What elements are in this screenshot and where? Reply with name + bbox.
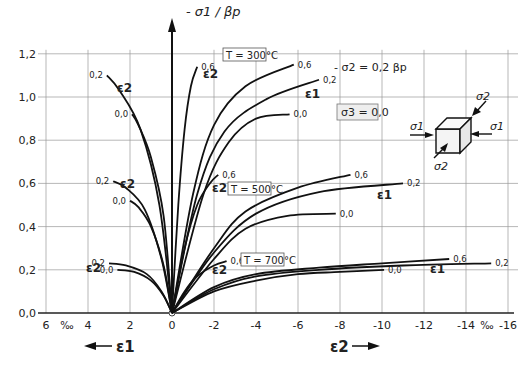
curve-end-label: 0,0 bbox=[100, 265, 114, 275]
y-tick-label: 1,2 bbox=[19, 48, 37, 61]
x-tick-label: 6 bbox=[43, 319, 50, 332]
curve bbox=[172, 270, 384, 313]
strain-label: ε2 bbox=[212, 263, 227, 277]
sigma1-right-label: σ1 bbox=[490, 120, 504, 133]
unit-label: ‰ bbox=[60, 320, 73, 331]
curve-end-label: 0,2 bbox=[407, 178, 421, 188]
sigma2-top-label: σ2 bbox=[476, 90, 490, 103]
label-T500: T = 500°C bbox=[228, 182, 283, 195]
svg-text:ε2: ε2 bbox=[330, 338, 349, 356]
curve-end-label: 0,6 bbox=[298, 60, 312, 70]
x-tick-label: 0 bbox=[169, 319, 176, 332]
curve-end-label: 0,0 bbox=[112, 196, 126, 206]
curve-end-label: 0,0 bbox=[388, 265, 402, 275]
strain-label: ε1 bbox=[305, 87, 320, 101]
label-T700: T = 700°C bbox=[241, 253, 296, 266]
curve-end-label: 0,6 bbox=[222, 170, 236, 180]
stress-strain-chart: 6420-2-4-6-8-10-12-14-16‰‰0,00,20,40,60,… bbox=[0, 0, 532, 365]
label-T300: T = 300°C bbox=[223, 48, 278, 61]
strain-label: ε1 bbox=[430, 262, 445, 276]
x-axis-label-eps2: ε2 bbox=[330, 338, 380, 356]
svg-text:T = 500°C: T = 500°C bbox=[230, 184, 283, 195]
y-tick-label: 0,6 bbox=[19, 177, 37, 190]
sigma2-bottom-label: σ2 bbox=[434, 160, 448, 173]
x-axis-label-eps1: ε1 bbox=[84, 338, 135, 356]
strain-label: ε2 bbox=[120, 177, 135, 191]
svg-text:T = 300°C: T = 300°C bbox=[225, 50, 278, 61]
strain-label: ε1 bbox=[377, 188, 392, 202]
x-tick-label: -6 bbox=[293, 319, 304, 332]
x-tick-label: -2 bbox=[209, 319, 220, 332]
x-tick-label: -8 bbox=[335, 319, 346, 332]
x-tick-label: -4 bbox=[251, 319, 262, 332]
arrow-left-icon bbox=[84, 342, 96, 350]
y-tick-label: 0,4 bbox=[19, 221, 37, 234]
curve-end-label: 0,2 bbox=[323, 75, 337, 85]
arrow-right-icon bbox=[368, 342, 380, 350]
x-tick-label: 2 bbox=[127, 319, 134, 332]
curve-end-label: 0,6 bbox=[453, 254, 467, 264]
y-tick-label: 1,0 bbox=[19, 91, 37, 104]
strain-label: ε2 bbox=[117, 81, 132, 95]
x-tick-label: -12 bbox=[415, 319, 433, 332]
svg-text:σ3 = 0,0: σ3 = 0,0 bbox=[341, 106, 389, 119]
svg-text:T = 700°C: T = 700°C bbox=[243, 255, 296, 266]
strain-label: ε2 bbox=[203, 67, 218, 81]
curve-end-label: 0,2 bbox=[495, 258, 509, 268]
y-tick-label: 0,0 bbox=[19, 307, 37, 320]
curve-end-label: 0,6 bbox=[355, 170, 369, 180]
y-tick-label: 0,2 bbox=[19, 264, 37, 277]
curve bbox=[117, 270, 172, 313]
curve-end-label: 0,0 bbox=[115, 109, 129, 119]
y-axis-arrow-icon bbox=[168, 18, 176, 32]
curve-end-label: 0,0 bbox=[294, 109, 308, 119]
strain-label: ε2 bbox=[86, 261, 101, 275]
curve-end-label: 0,0 bbox=[340, 209, 354, 219]
curve bbox=[172, 175, 351, 313]
sigma1-left-label: σ1 bbox=[410, 120, 424, 133]
curve-end-label: 0,2 bbox=[89, 70, 103, 80]
svg-text:ε1: ε1 bbox=[116, 338, 135, 356]
unit-label: ‰ bbox=[480, 320, 493, 331]
y-tick-label: 0,8 bbox=[19, 134, 37, 147]
x-tick-label: 4 bbox=[85, 319, 92, 332]
stress-ratio-label: - σ2 = 0,2 βp bbox=[334, 61, 407, 74]
x-tick-label: -14 bbox=[457, 319, 475, 332]
sigma3-label: σ3 = 0,0 bbox=[337, 104, 389, 120]
strain-label: ε2 bbox=[212, 181, 227, 195]
y-axis-title: - σ1 / βp bbox=[186, 4, 241, 19]
curve-end-label: 0,2 bbox=[96, 176, 110, 186]
x-tick-label: -16 bbox=[499, 319, 517, 332]
x-tick-label: -10 bbox=[373, 319, 391, 332]
